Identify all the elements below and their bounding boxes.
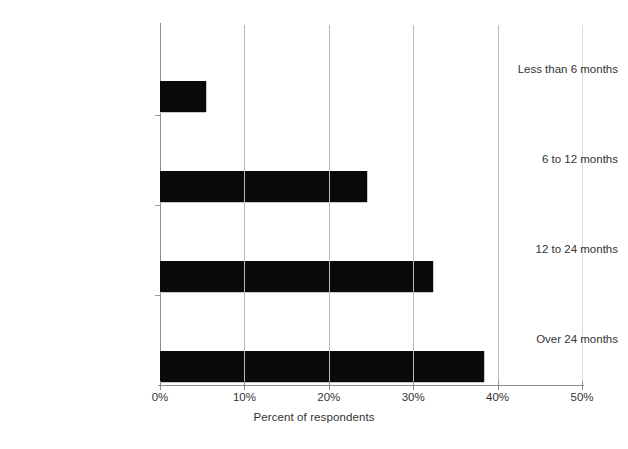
bar-chart: 0%10%20%30%40%50% Less than 6 months6 to… (0, 0, 628, 449)
category-label: Less than 6 months (470, 63, 618, 76)
gridline-10 (244, 25, 245, 385)
x-axis-line (158, 385, 584, 386)
x-axis-title: Percent of respondents (0, 411, 628, 423)
x-tick-10 (244, 381, 245, 390)
plot-area (160, 25, 582, 385)
x-tick-label-40: 40% (475, 391, 521, 403)
x-tick-40 (498, 381, 499, 390)
category-label: 12 to 24 months (470, 243, 618, 256)
gridline-30 (413, 25, 414, 385)
bar (160, 261, 433, 292)
x-tick-label-0: 0% (137, 391, 183, 403)
x-tick-label-50: 50% (559, 391, 605, 403)
bar (160, 351, 484, 382)
gridline-40 (498, 25, 499, 385)
category-label: 6 to 12 months (470, 153, 618, 166)
y-tick-3 (155, 295, 161, 296)
bar (160, 171, 367, 202)
x-tick-label-30: 30% (390, 391, 436, 403)
y-tick-1 (155, 115, 161, 116)
y-tick-2 (155, 205, 161, 206)
x-tick-50 (582, 381, 583, 390)
x-tick-30 (413, 381, 414, 390)
x-tick-label-20: 20% (306, 391, 352, 403)
gridline-50 (582, 25, 583, 385)
x-tick-0 (160, 381, 161, 390)
category-label: Over 24 months (470, 333, 618, 346)
gridline-20 (329, 25, 330, 385)
bar (160, 81, 206, 112)
x-tick-20 (329, 381, 330, 390)
x-tick-label-10: 10% (221, 391, 267, 403)
